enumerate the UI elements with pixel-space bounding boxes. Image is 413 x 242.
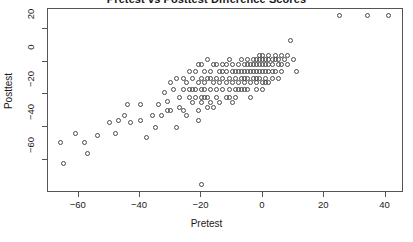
data-point — [236, 80, 241, 85]
data-point — [168, 80, 173, 85]
data-point — [217, 80, 222, 85]
x-axis-tick-label: 40 — [379, 199, 390, 210]
x-axis-tick-label: 0 — [259, 199, 264, 210]
data-point — [285, 62, 290, 67]
data-point — [276, 76, 281, 81]
data-point — [85, 151, 90, 156]
data-point — [236, 87, 241, 92]
x-axis-tick — [200, 192, 201, 197]
data-point — [190, 76, 195, 81]
data-point — [279, 62, 284, 67]
data-point — [205, 57, 210, 62]
data-point — [159, 113, 164, 118]
data-point — [254, 87, 259, 92]
data-point — [95, 133, 100, 138]
data-point — [214, 87, 219, 92]
data-point — [128, 120, 133, 125]
data-point — [254, 80, 259, 85]
data-point — [193, 69, 198, 74]
data-point — [205, 105, 210, 110]
data-point — [199, 182, 204, 187]
data-point — [187, 69, 192, 74]
y-axis-tick-label: 0 — [25, 44, 36, 49]
data-point — [233, 69, 238, 74]
data-point — [162, 90, 167, 95]
x-axis-tick — [262, 192, 263, 197]
data-point — [184, 113, 189, 118]
x-axis-tick-label: −20 — [192, 199, 208, 210]
data-point — [122, 113, 127, 118]
y-axis-tick — [42, 28, 47, 29]
data-point — [202, 69, 207, 74]
data-point — [337, 13, 342, 18]
data-point — [190, 100, 195, 105]
y-axis-tick — [42, 93, 47, 94]
x-axis-tick — [323, 192, 324, 197]
y-axis-tick-label: −20 — [25, 71, 36, 87]
data-point — [177, 95, 182, 100]
y-axis-tick — [42, 126, 47, 127]
y-axis-tick — [42, 61, 47, 62]
data-point — [196, 80, 201, 85]
data-point — [230, 80, 235, 85]
data-point — [181, 87, 186, 92]
data-point — [288, 38, 293, 43]
data-point — [153, 125, 158, 130]
data-point — [61, 161, 66, 166]
y-axis-tick-label: −40 — [25, 104, 36, 120]
data-point — [294, 69, 299, 74]
data-point — [365, 13, 370, 18]
data-point — [242, 87, 247, 92]
y-axis-title: Posttest — [3, 61, 14, 121]
data-point — [190, 87, 195, 92]
data-point — [270, 62, 275, 67]
data-point — [138, 102, 143, 107]
data-point — [202, 80, 207, 85]
x-axis-tick — [78, 192, 79, 197]
data-point — [224, 80, 229, 85]
data-point — [193, 95, 198, 100]
data-point — [227, 95, 232, 100]
data-point — [214, 62, 219, 67]
data-point — [285, 53, 290, 58]
data-point — [220, 87, 225, 92]
x-axis-tick-label: −60 — [70, 199, 86, 210]
data-point — [386, 13, 391, 18]
data-point — [150, 113, 155, 118]
data-point — [208, 87, 213, 92]
data-point — [82, 140, 87, 145]
data-point — [236, 62, 241, 67]
data-point — [199, 100, 204, 105]
data-point — [224, 62, 229, 67]
data-point — [171, 87, 176, 92]
data-point — [254, 76, 259, 81]
data-point — [113, 131, 118, 136]
data-point — [279, 69, 284, 74]
data-point — [208, 76, 213, 81]
data-point — [230, 100, 235, 105]
x-axis-tick — [385, 192, 386, 197]
x-axis-title: Pretest — [0, 218, 413, 229]
data-point — [138, 118, 143, 123]
data-point — [107, 120, 112, 125]
chart-title: Pretest vs Posttest Difference Scores — [0, 0, 413, 5]
data-point — [291, 57, 296, 62]
data-point — [217, 100, 222, 105]
y-axis-tick-label: 20 — [25, 8, 36, 19]
x-axis-tick — [139, 192, 140, 197]
data-point — [165, 99, 170, 104]
y-axis-tick — [42, 159, 47, 160]
data-point — [174, 76, 179, 81]
data-point — [227, 87, 232, 92]
data-point — [248, 80, 253, 85]
data-point — [248, 95, 253, 100]
scatter-plot-figure: Pretest vs Posttest Difference Scores −6… — [0, 0, 413, 242]
data-point — [270, 69, 275, 74]
data-point — [181, 76, 186, 81]
data-point — [230, 62, 235, 67]
x-axis-tick-label: 20 — [318, 199, 329, 210]
data-point — [116, 118, 121, 123]
data-point — [144, 135, 149, 140]
data-point — [73, 131, 78, 136]
data-point — [196, 118, 201, 123]
